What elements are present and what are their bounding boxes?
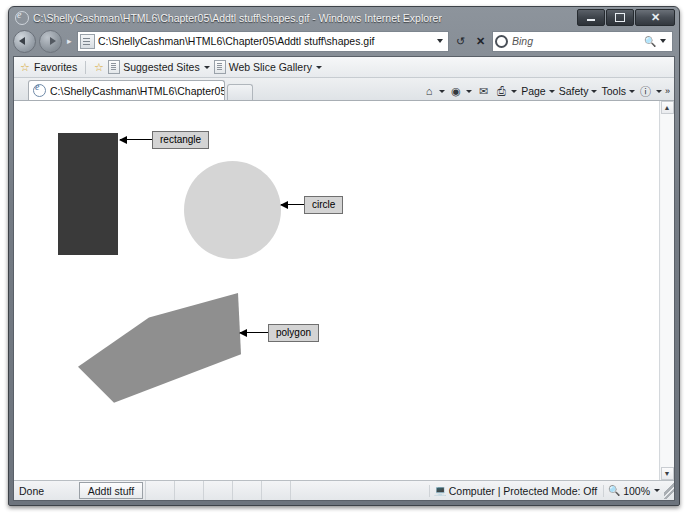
internet-explorer-window: C:\ShellyCashman\HTML6\Chapter05\Addtl s…	[8, 6, 680, 506]
scrollbar-track[interactable]	[661, 114, 674, 467]
favorites-button[interactable]: Favorites	[34, 61, 77, 73]
minimize-button[interactable]	[577, 9, 605, 26]
maximize-restore-button[interactable]	[606, 9, 634, 26]
chevron-down-icon	[466, 90, 472, 93]
printer-icon: ⎙	[494, 84, 508, 98]
chevron-down-icon	[437, 39, 443, 43]
page-menu[interactable]: Page	[520, 85, 556, 97]
restore-icon	[615, 13, 625, 22]
page-icon	[108, 60, 120, 74]
new-tab-button[interactable]	[227, 84, 253, 100]
refresh-icon: ↺	[456, 35, 465, 48]
page-viewport: rectangle circle polygon ▲ ▼	[14, 101, 674, 480]
stop-icon: ✕	[476, 35, 485, 48]
page-icon	[214, 60, 226, 74]
chevron-down-icon	[204, 66, 210, 69]
chevron-down-icon	[549, 90, 555, 93]
polygon-leader-arrow	[240, 332, 270, 333]
favorites-separator	[85, 61, 86, 74]
feeds-button[interactable]: ◉	[448, 84, 473, 98]
circle-shape	[184, 161, 281, 259]
page-menu-label: Page	[521, 85, 546, 97]
chevron-down-icon	[656, 90, 662, 93]
page-icon	[80, 34, 95, 49]
home-button[interactable]: ⌂	[421, 84, 446, 98]
status-text: Done	[14, 485, 79, 497]
tools-menu[interactable]: Tools	[600, 85, 636, 97]
chevron-down-icon: ▼	[664, 470, 671, 477]
add-to-favorites-bar-icon[interactable]: ☆	[94, 62, 104, 73]
security-zone-label: Computer | Protected Mode: Off	[449, 485, 597, 497]
zoom-level-label: 100%	[623, 485, 650, 497]
polygon-callout-label: polygon	[268, 324, 319, 342]
print-button[interactable]: ⎙	[493, 84, 518, 98]
search-box[interactable]: Bing 🔍	[492, 31, 673, 52]
tab-bar: C:\ShellyCashman\HTML6\Chapter05\Addtl s…	[14, 78, 674, 101]
internet-explorer-logo-icon	[15, 11, 29, 25]
refresh-button[interactable]: ↺	[452, 32, 469, 51]
computer-icon: 💻	[434, 485, 446, 496]
back-button[interactable]	[13, 30, 36, 53]
chevron-down-icon	[660, 39, 666, 43]
rss-feed-icon: ◉	[449, 84, 463, 98]
status-panel	[290, 481, 319, 500]
address-bar[interactable]: C:\ShellyCashman\HTML6\Chapter05\Addtl s…	[77, 31, 449, 52]
internet-explorer-logo-icon	[33, 84, 46, 97]
chevron-up-icon: ▲	[664, 104, 671, 111]
mail-button[interactable]: ✉	[475, 84, 491, 98]
circle-leader-arrow	[281, 204, 306, 205]
navigation-bar: ▸ C:\ShellyCashman\HTML6\Chapter05\Addtl…	[9, 28, 679, 54]
resize-grip[interactable]	[664, 482, 674, 499]
chevron-down-icon	[511, 90, 517, 93]
chevron-down-icon	[629, 90, 635, 93]
favorites-item-web-slice-gallery[interactable]: Web Slice Gallery	[214, 60, 322, 74]
help-icon: ⓘ	[639, 84, 653, 98]
home-icon: ⌂	[422, 84, 436, 98]
chevron-down-icon	[439, 90, 445, 93]
close-icon: ✕	[651, 12, 660, 23]
scroll-up-button[interactable]: ▲	[661, 101, 674, 114]
command-bar: ⌂ ◉ ✉ ⎙ Page Saf	[421, 84, 670, 98]
circle-callout-label: circle	[304, 196, 343, 214]
rectangle-shape	[58, 133, 118, 255]
security-zone-indicator[interactable]: 💻 Computer | Protected Mode: Off	[429, 485, 603, 497]
status-panel	[174, 481, 203, 500]
chevron-down-icon	[654, 489, 660, 492]
client-area: ☆ Favorites ☆ Suggested Sites Web Slice …	[13, 56, 675, 501]
stop-button[interactable]: ✕	[472, 32, 489, 51]
favorites-bar: ☆ Favorites ☆ Suggested Sites Web Slice …	[14, 57, 674, 78]
search-provider-dropdown[interactable]	[656, 33, 670, 50]
status-panels	[145, 481, 429, 500]
shapes-image: rectangle circle polygon	[14, 101, 659, 480]
status-bar: Done Addtl stuff 💻 Computer | Protected …	[14, 480, 674, 500]
tab-shapes-gif[interactable]: C:\ShellyCashman\HTML6\Chapter05\Addtl s…	[28, 80, 225, 100]
tab-label: C:\ShellyCashman\HTML6\Chapter05\Addtl s…	[50, 85, 225, 97]
close-button[interactable]: ✕	[635, 9, 675, 26]
bing-logo-icon	[495, 35, 508, 48]
search-input[interactable]: Bing	[512, 35, 644, 47]
zoom-control[interactable]: 🔍 100%	[603, 485, 664, 497]
tools-menu-label: Tools	[601, 85, 626, 97]
window-controls: ✕	[577, 9, 675, 26]
favorites-item-suggested-sites[interactable]: Suggested Sites	[108, 60, 209, 74]
forward-button[interactable]	[39, 30, 62, 53]
title-bar: C:\ShellyCashman\HTML6\Chapter05\Addtl s…	[9, 7, 679, 28]
search-icon[interactable]: 🔍	[644, 36, 656, 47]
chevron-down-icon	[591, 90, 597, 93]
minimize-icon	[587, 19, 595, 21]
zoom-magnifier-icon: 🔍	[608, 485, 620, 496]
taskbar-button-addtl-stuff[interactable]: Addtl stuff	[79, 482, 143, 499]
rectangle-leader-arrow	[120, 139, 154, 140]
address-dropdown-button[interactable]	[433, 33, 447, 50]
polygon-shape	[78, 293, 243, 405]
help-button[interactable]: ⓘ	[638, 84, 663, 98]
window-title: C:\ShellyCashman\HTML6\Chapter05\Addtl s…	[33, 12, 442, 24]
vertical-scrollbar[interactable]: ▲ ▼	[659, 101, 674, 480]
scroll-down-button[interactable]: ▼	[661, 467, 674, 480]
safety-menu[interactable]: Safety	[558, 85, 599, 97]
rectangle-callout-label: rectangle	[152, 131, 209, 149]
nav-separator: ▸	[65, 36, 74, 46]
status-panel	[261, 481, 290, 500]
command-bar-overflow[interactable]: »	[665, 86, 670, 96]
address-input[interactable]: C:\ShellyCashman\HTML6\Chapter05\Addtl s…	[98, 35, 433, 47]
